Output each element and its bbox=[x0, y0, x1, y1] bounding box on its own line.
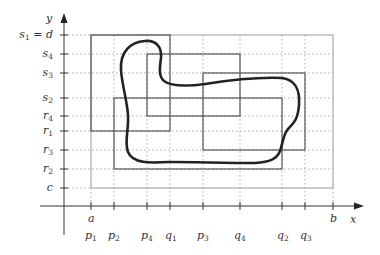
svg-text:r4: r4 bbox=[43, 109, 53, 123]
y-axis-label: y bbox=[45, 12, 53, 25]
y-axis-arrow-icon bbox=[61, 13, 68, 23]
rectangle-r2 bbox=[114, 98, 282, 169]
closed-curve bbox=[121, 41, 299, 163]
svg-text:s2: s2 bbox=[43, 91, 54, 105]
svg-text:p3: p3 bbox=[197, 229, 209, 243]
x-tick-labels: p1 p2 p4 q1 p3 q4 q2 q3 bbox=[85, 229, 312, 243]
svg-text:p4: p4 bbox=[141, 229, 153, 243]
rectangle-cover-diagram: x y a b p1 p2 p4 q1 p3 q4 q2 q3 s1 = d s… bbox=[0, 0, 380, 255]
svg-text:s4: s4 bbox=[43, 47, 54, 61]
svg-text:p2: p2 bbox=[108, 229, 120, 243]
svg-text:s1 = d: s1 = d bbox=[19, 28, 53, 42]
x-bound-b-label: b bbox=[330, 212, 337, 225]
svg-text:q3: q3 bbox=[300, 229, 312, 243]
svg-text:q4: q4 bbox=[234, 229, 246, 243]
axes bbox=[40, 20, 356, 235]
svg-text:q2: q2 bbox=[277, 229, 289, 243]
y-tick-labels: s1 = d s4 s3 s2 r4 r1 r3 r2 c bbox=[19, 28, 53, 194]
x-axis-label: x bbox=[350, 213, 357, 226]
svg-text:r2: r2 bbox=[43, 162, 53, 176]
dotted-grid bbox=[64, 35, 333, 206]
x-bound-a-label: a bbox=[88, 212, 95, 225]
rectangle-r3 bbox=[203, 73, 305, 150]
svg-text:c: c bbox=[47, 181, 53, 194]
svg-text:r1: r1 bbox=[43, 124, 53, 138]
svg-text:s3: s3 bbox=[43, 66, 54, 80]
svg-text:r3: r3 bbox=[43, 143, 53, 157]
x-axis-arrow-icon bbox=[354, 203, 364, 210]
svg-text:q1: q1 bbox=[165, 229, 177, 243]
svg-text:p1: p1 bbox=[85, 229, 97, 243]
